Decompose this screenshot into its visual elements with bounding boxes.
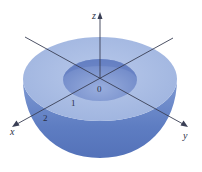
x-axis-label: x [9, 126, 15, 137]
tick-label-1: 1 [71, 98, 76, 108]
tick-label-2: 2 [43, 113, 48, 123]
origin-label: 0 [97, 84, 102, 94]
y-axis-label: y [182, 130, 188, 141]
y-arrow-icon [181, 121, 189, 128]
hemispherical-shell-diagram: z y x 0 1 2 [0, 0, 202, 172]
z-arrow-icon [98, 12, 103, 19]
z-axis-label: z [91, 10, 96, 21]
